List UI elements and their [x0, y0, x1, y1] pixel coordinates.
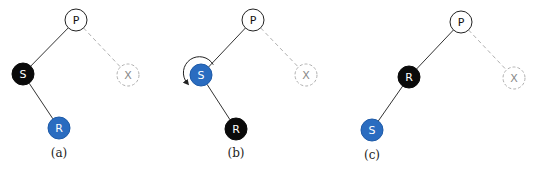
node-label-s: S — [20, 68, 27, 81]
node-label-x: X — [302, 69, 310, 82]
node-label-s: S — [198, 69, 205, 82]
node-label-p: P — [458, 16, 465, 29]
panel-caption: (c) — [364, 148, 380, 162]
node-label-x: X — [510, 72, 518, 85]
edge-P-X — [84, 28, 121, 67]
rotation-diagram: PSXR(a) PSXR(b) PRXS(c) — [0, 0, 538, 169]
edge-P-R — [417, 30, 454, 69]
edge-P-S — [31, 28, 69, 66]
panel-caption: (a) — [51, 146, 68, 160]
panel-c: PRXS(c) — [361, 11, 525, 162]
node-label-x: X — [124, 69, 132, 82]
panel-caption: (b) — [227, 146, 244, 160]
edge-S-R — [29, 83, 53, 119]
node-label-s: S — [369, 124, 376, 137]
edge-P-X — [469, 30, 507, 70]
node-label-p: P — [250, 14, 257, 27]
panel-b: PSXR(b) — [183, 9, 317, 160]
edge-S-R — [207, 84, 230, 120]
edge-R-S — [378, 86, 402, 121]
panel-a: PSXR(a) — [12, 9, 139, 160]
node-label-r: R — [232, 123, 240, 136]
edge-P-X — [261, 28, 299, 67]
edge-P-S — [209, 28, 246, 67]
node-label-r: R — [55, 122, 63, 135]
node-label-r: R — [405, 71, 413, 84]
node-label-p: P — [73, 14, 80, 27]
